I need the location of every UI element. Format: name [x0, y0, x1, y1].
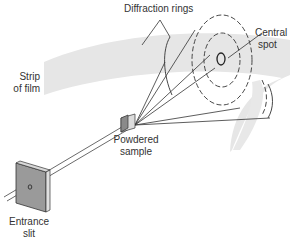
- label-entrance-slit: Entrance slit: [6, 216, 52, 240]
- central-spot-line1: Central: [255, 27, 287, 39]
- central-spot-line2: spot: [255, 39, 287, 51]
- slit-line1: Entrance: [6, 216, 52, 228]
- sample-line2: sample: [108, 146, 164, 158]
- slit-line2: slit: [6, 228, 52, 240]
- sample-line1: Powdered: [108, 134, 164, 146]
- label-strip-of-film: Strip of film: [8, 71, 40, 95]
- powdered-sample: [121, 114, 135, 132]
- label-diffraction-rings: Diffraction rings: [124, 3, 193, 15]
- powder-diffraction-diagram: [0, 0, 298, 243]
- film-strip-right-curl: [233, 80, 263, 150]
- label-central-spot: Central spot: [255, 27, 287, 51]
- strip-line1: Strip: [8, 71, 40, 83]
- entrance-slit-plate: [16, 161, 50, 212]
- label-powdered-sample: Powdered sample: [108, 134, 164, 158]
- strip-line2: of film: [8, 83, 40, 95]
